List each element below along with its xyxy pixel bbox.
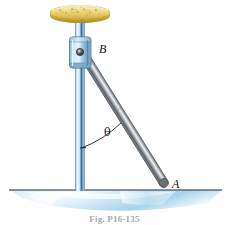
label-point-a: A (172, 178, 179, 190)
disc-group (50, 6, 110, 24)
rod-shadow (81, 55, 162, 185)
pin-highlight (78, 50, 80, 52)
rod-highlight (84, 53, 165, 183)
rod-rotated (77, 47, 170, 189)
label-angle-theta: θ (104, 127, 111, 138)
ground-plane-group (9, 190, 222, 211)
angle-arc-group (80, 123, 121, 148)
figure-illustration (0, 0, 229, 225)
rod-group (77, 47, 170, 189)
angle-arc (82, 123, 121, 148)
figure-caption: Fig. P16-135 (0, 214, 229, 225)
label-point-b: B (99, 43, 106, 55)
collar-group (70, 37, 92, 68)
figure-container: B A θ Fig. P16-135 (0, 0, 229, 225)
